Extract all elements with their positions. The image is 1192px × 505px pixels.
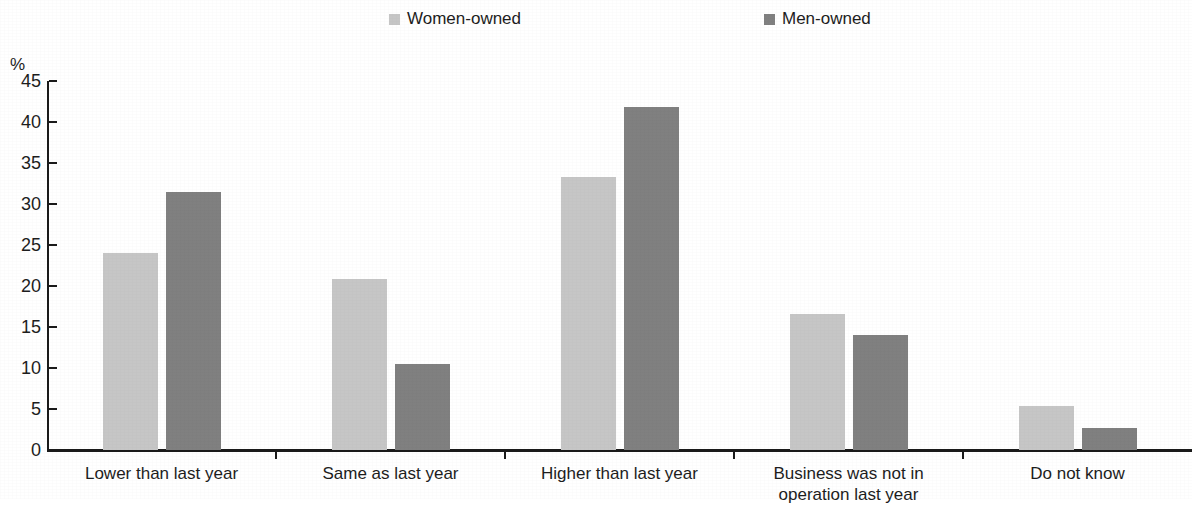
y-axis-tick (49, 367, 57, 369)
y-axis-tick (49, 203, 57, 205)
legend-item-women-owned[interactable]: Women-owned (389, 8, 521, 30)
x-axis-tick (962, 450, 964, 459)
y-axis-tick (49, 285, 57, 287)
x-axis-category-label-line: Higher than last year (505, 463, 734, 484)
y-axis-tick-label: 10 (1, 359, 41, 377)
y-axis-tick (49, 244, 57, 246)
y-axis-tick (49, 449, 57, 451)
y-axis-tick (49, 162, 57, 164)
bar-men-owned[interactable] (853, 335, 908, 450)
x-axis-category-label: Higher than last year (505, 463, 734, 484)
bar-men-owned[interactable] (395, 364, 450, 450)
legend-swatch-icon-women-owned (389, 14, 400, 25)
legend-label-men-owned: Men-owned (782, 9, 871, 29)
x-axis-category-label: Same as last year (276, 463, 505, 484)
bar-women-owned[interactable] (561, 177, 616, 450)
x-axis-tick (504, 450, 506, 459)
x-axis-category-label: Lower than last year (47, 463, 276, 484)
y-axis-tick-label: 15 (1, 318, 41, 336)
x-axis-category-label: Business was not inoperation last year (734, 463, 963, 505)
y-axis-tick-label: 45 (1, 72, 41, 90)
bar-women-owned[interactable] (332, 279, 387, 450)
y-axis-tick (49, 408, 57, 410)
x-axis-category-label-line: Lower than last year (47, 463, 276, 484)
x-axis-category-label-line: Business was not in (734, 463, 963, 484)
y-axis-tick-label: 0 (1, 441, 41, 459)
y-axis-tick-label: 20 (1, 277, 41, 295)
bar-men-owned[interactable] (166, 192, 221, 450)
y-axis-tick-label: 30 (1, 195, 41, 213)
legend-item-men-owned[interactable]: Men-owned (764, 8, 871, 30)
x-axis-tick (733, 450, 735, 459)
x-axis-category-label-line: operation last year (734, 484, 963, 505)
y-axis-tick-label: 25 (1, 236, 41, 254)
x-axis-category-label: Do not know (963, 463, 1192, 484)
y-axis-line (47, 81, 49, 450)
y-axis-tick (49, 121, 57, 123)
x-axis-tick (275, 450, 277, 459)
x-axis-category-label-line: Same as last year (276, 463, 505, 484)
y-axis-tick-label: 5 (1, 400, 41, 418)
y-axis-tick-label: 35 (1, 154, 41, 172)
legend-swatch-icon-men-owned (764, 14, 775, 25)
y-axis-tick (49, 326, 57, 328)
plot-area: 051015202530354045 Lower than last yearS… (47, 81, 1192, 450)
bar-women-owned[interactable] (103, 253, 158, 450)
y-axis-tick-label: 40 (1, 113, 41, 131)
bar-women-owned[interactable] (1019, 406, 1074, 450)
legend-label-women-owned: Women-owned (407, 9, 521, 29)
bar-men-owned[interactable] (1082, 428, 1137, 450)
bar-men-owned[interactable] (624, 107, 679, 450)
y-axis-tick (49, 80, 57, 82)
bar-women-owned[interactable] (790, 314, 845, 450)
x-axis-category-label-line: Do not know (963, 463, 1192, 484)
chart-legend: Women-owned Men-owned (0, 8, 1192, 34)
